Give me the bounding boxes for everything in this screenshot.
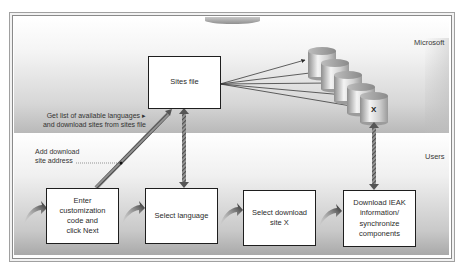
add-address-line1: Add download — [35, 147, 79, 156]
hatched-arrow-sites-language — [179, 108, 189, 188]
add-address-annotation: Add download site address — [35, 147, 79, 166]
flow-arrow-4 — [319, 204, 342, 227]
sites-file-box: Sites file — [148, 56, 221, 109]
step2-line1: Select language — [155, 211, 209, 221]
add-address-leader — [76, 162, 123, 165]
get-list-line2: and download sites from sites file — [36, 120, 146, 129]
step1-line4: click Next — [60, 226, 106, 236]
step4-line1: Download IEAK — [353, 198, 406, 208]
add-address-line2: site address — [35, 156, 79, 165]
step-select-download-site: Select download site X — [243, 190, 316, 246]
get-list-annotation: Get list of available languages ▸ and do… — [36, 111, 146, 130]
sites-file-label: Sites file — [170, 77, 198, 87]
step-enter-customization-code: Enter customization code and click Next — [46, 188, 119, 244]
step1-line1: Enter — [60, 196, 106, 206]
step1-line3: code and — [60, 216, 106, 226]
step4-line2: information/ — [353, 208, 406, 218]
flow-arrow-start — [24, 201, 47, 224]
step3-line1: Select download — [252, 208, 307, 218]
selected-site-label: X — [371, 105, 376, 114]
step1-line2: customization — [60, 206, 106, 216]
step3-line2: site X — [252, 218, 307, 228]
get-list-line1: Get list of available languages ▸ — [36, 111, 146, 120]
step-select-language: Select language — [145, 188, 218, 244]
step4-line4: components — [353, 229, 406, 239]
step-download-ieak: Download IEAK information/ synchronize c… — [343, 190, 416, 247]
hatched-arrow-cylinder-download — [369, 122, 379, 190]
flow-arrow-2 — [122, 201, 145, 224]
flow-arrow-3 — [220, 203, 243, 226]
step4-line3: synchronize — [353, 219, 406, 229]
